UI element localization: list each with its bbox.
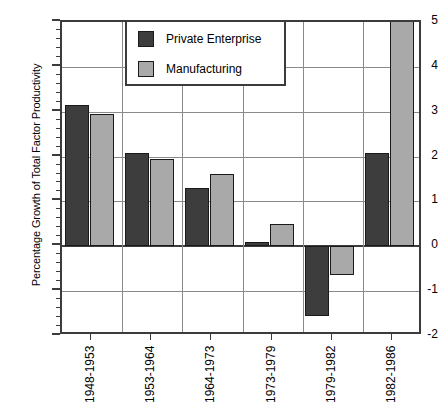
y-tick-mark <box>52 64 60 66</box>
x-tick-label: 1948-1953 <box>84 346 97 403</box>
bar-private-enterprise <box>305 246 329 316</box>
bar-manufacturing <box>330 246 354 275</box>
x-tick-mark <box>331 334 332 340</box>
bar-manufacturing <box>210 174 234 247</box>
legend-item-manufacturing: Manufacturing <box>127 56 284 82</box>
x-tick-label: 1979-1982 <box>325 346 338 403</box>
chart-legend: Private Enterprise Manufacturing <box>125 20 286 86</box>
y-tick-mark <box>52 109 60 111</box>
bar-private-enterprise <box>65 105 89 246</box>
x-tick-label: 1973-1979 <box>265 346 278 403</box>
x-tick-mark <box>150 334 151 340</box>
x-tick-label: 1953-1964 <box>144 346 157 403</box>
bar-chart: Percentage Growth of Total Factor Produc… <box>0 0 438 408</box>
bar-private-enterprise <box>185 188 209 246</box>
bar-manufacturing <box>270 224 294 246</box>
category-separator <box>303 22 304 332</box>
bar-manufacturing <box>150 159 174 246</box>
legend-swatch-manufacturing <box>138 61 154 77</box>
x-tick-mark <box>271 334 272 340</box>
y-tick-mark <box>52 333 60 335</box>
x-tick-label: 1964-1973 <box>204 346 217 403</box>
legend-item-private-enterprise: Private Enterprise <box>127 26 284 52</box>
y-tick-mark <box>52 288 60 290</box>
bar-manufacturing <box>90 114 114 246</box>
x-tick-mark <box>391 334 392 340</box>
category-separator <box>122 22 123 332</box>
bar-private-enterprise <box>365 153 389 246</box>
bar-private-enterprise <box>125 153 149 246</box>
bar-private-enterprise <box>245 242 269 246</box>
legend-label-private-enterprise: Private Enterprise <box>166 33 261 45</box>
legend-label-manufacturing: Manufacturing <box>166 63 242 75</box>
y-tick-mark <box>52 154 60 156</box>
x-tick-mark <box>90 334 91 340</box>
y-tick-mark <box>52 19 60 21</box>
y-tick-mark <box>52 198 60 200</box>
x-tick-mark <box>210 334 211 340</box>
x-tick-label: 1982-1986 <box>385 346 398 403</box>
category-separator <box>363 22 364 332</box>
y-tick-mark <box>52 243 60 245</box>
gridline <box>62 291 419 292</box>
gridline <box>62 112 419 113</box>
legend-swatch-private-enterprise <box>138 31 154 47</box>
bar-manufacturing <box>390 22 414 246</box>
y-axis-title: Percentage Growth of Total Factor Produc… <box>24 5 48 345</box>
